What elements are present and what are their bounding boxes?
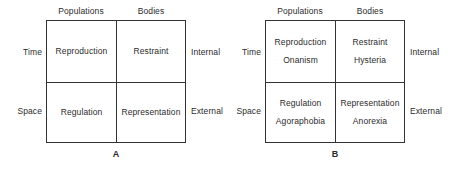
column-header-bodies-a: Bodies — [116, 4, 186, 18]
cell-secondary-label: Onanism — [283, 55, 318, 66]
row-label-time-a: Time — [0, 47, 42, 58]
cell-primary-label: Restraint — [134, 46, 169, 57]
row-label-external-b: External — [410, 106, 458, 117]
matrix-cell-b-space-bodies[interactable]: Representation Anorexia — [335, 82, 404, 143]
cell-primary-label: Regulation — [61, 107, 103, 118]
matrix-cell-b-time-bodies[interactable]: Restraint Hysteria — [335, 21, 404, 82]
cell-primary-label: Restraint — [353, 37, 388, 48]
matrix-cell-a-space-bodies[interactable]: Representation — [116, 82, 185, 143]
column-headers-b: Populations Bodies — [265, 4, 405, 18]
column-headers-a: Populations Bodies — [46, 4, 186, 18]
matrix-cell-b-time-populations[interactable]: Reproduction Onanism — [266, 21, 335, 82]
row-label-space-a: Space — [0, 106, 42, 117]
cell-primary-label: Representation — [340, 98, 399, 109]
diagram-b: Populations Bodies Time Space Reproducti… — [230, 0, 460, 169]
cell-primary-label: Representation — [121, 107, 180, 118]
column-header-populations-b: Populations — [265, 4, 335, 18]
matrix-cell-a-space-populations[interactable]: Regulation — [47, 82, 116, 143]
column-header-bodies-b: Bodies — [335, 4, 405, 18]
row-label-space-b: Space — [218, 106, 261, 117]
row-label-internal-b: Internal — [410, 47, 458, 58]
diagram-a: Populations Bodies Time Space Reproducti… — [0, 0, 230, 169]
matrix-cell-a-time-populations[interactable]: Reproduction — [47, 21, 116, 82]
cell-primary-label: Regulation — [280, 98, 322, 109]
cell-secondary-label: Hysteria — [354, 55, 386, 66]
diagram-caption-a: A — [46, 149, 186, 159]
cell-secondary-label: Agoraphobia — [276, 116, 325, 127]
figure-canvas: Populations Bodies Time Space Reproducti… — [0, 0, 460, 169]
matrix-grid-a: Reproduction Restraint Regulation Repres… — [46, 20, 186, 143]
matrix-cell-b-space-populations[interactable]: Regulation Agoraphobia — [266, 82, 335, 143]
matrix-cell-a-time-bodies[interactable]: Restraint — [116, 21, 185, 82]
matrix-grid-b: Reproduction Onanism Restraint Hysteria … — [265, 20, 405, 143]
cell-primary-label: Reproduction — [56, 46, 108, 57]
row-label-time-b: Time — [218, 47, 261, 58]
diagram-caption-b: B — [265, 149, 405, 159]
column-header-populations-a: Populations — [46, 4, 116, 18]
cell-primary-label: Reproduction — [275, 37, 327, 48]
cell-secondary-label: Anorexia — [353, 116, 387, 127]
